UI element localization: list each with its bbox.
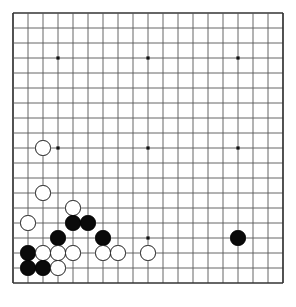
white-stone[interactable]: [35, 245, 50, 260]
white-stone[interactable]: [20, 215, 35, 230]
white-stone[interactable]: [110, 245, 125, 260]
black-stone[interactable]: [95, 230, 110, 245]
star-point-icon: [56, 146, 59, 149]
black-stone[interactable]: [20, 245, 35, 260]
star-point-icon: [236, 146, 239, 149]
white-stone[interactable]: [95, 245, 110, 260]
white-stone[interactable]: [35, 140, 50, 155]
star-point-icon: [146, 146, 149, 149]
star-point-icon: [236, 56, 239, 59]
black-stone[interactable]: [80, 215, 95, 230]
white-stone[interactable]: [65, 245, 80, 260]
star-point-icon: [56, 56, 59, 59]
white-stone[interactable]: [50, 245, 65, 260]
black-stone[interactable]: [35, 260, 50, 275]
white-stone[interactable]: [65, 200, 80, 215]
star-point-icon: [146, 56, 149, 59]
white-stone[interactable]: [35, 185, 50, 200]
black-stone[interactable]: [65, 215, 80, 230]
go-board-container: [0, 0, 296, 307]
white-stone[interactable]: [140, 245, 155, 260]
black-stone[interactable]: [20, 260, 35, 275]
black-stone[interactable]: [50, 230, 65, 245]
white-stone[interactable]: [50, 260, 65, 275]
black-stone[interactable]: [230, 230, 245, 245]
star-point-icon: [146, 236, 149, 239]
